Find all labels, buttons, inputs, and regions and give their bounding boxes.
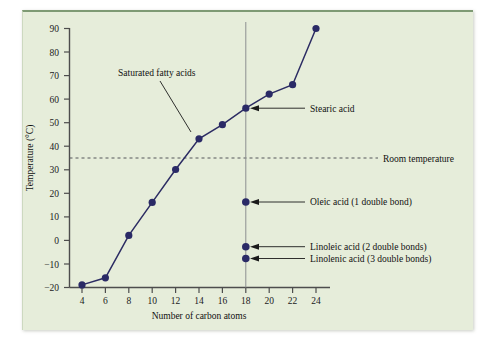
annotation-linoleic-acid-label: Linoleic acid (2 double bonds) (310, 242, 427, 253)
annotation-linolenic-arrowhead (250, 256, 259, 262)
annotation-linoleic-arrowhead (250, 244, 259, 250)
annotation-linolenic-acid-label: Linolenic acid (3 double bonds) (310, 254, 431, 265)
annotation-room-temperature-label: Room temperature (383, 154, 454, 164)
x-tick-label: 18 (241, 296, 251, 306)
y-tick-label: −20 (44, 283, 59, 293)
y-tick-label: 10 (50, 212, 60, 222)
y-axis-ticks: 90 80 70 60 50 40 30 20 10 0 −10 −20 (44, 24, 69, 293)
data-point (195, 135, 202, 142)
annotation-stearic-arrowhead (250, 105, 259, 111)
y-tick-label: 80 (50, 48, 60, 58)
y-tick-label: 20 (50, 189, 60, 199)
x-tick-label: 24 (311, 296, 321, 306)
x-tick-label: 14 (194, 296, 204, 306)
annotation-linolenic-acid: Linolenic acid (3 double bonds) (250, 254, 431, 265)
saturated-data-points (78, 25, 319, 289)
data-point-stearic (242, 105, 249, 112)
annotation-stearic-acid-label: Stearic acid (310, 104, 355, 114)
x-tick-label: 10 (147, 296, 157, 306)
annotation-saturated-fatty-acids-label: Saturated fatty acids (118, 68, 196, 78)
annotation-stearic-acid: Stearic acid (250, 104, 355, 114)
annotation-saturated-leader-line (160, 81, 191, 132)
axes-group (70, 28, 331, 288)
y-tick-label: 50 (50, 118, 60, 128)
data-point (266, 91, 273, 98)
x-tick-label: 4 (80, 296, 85, 306)
data-point-linolenic (242, 255, 250, 263)
x-axis-ticks: 4 6 8 10 12 14 16 18 20 22 24 (80, 288, 321, 307)
data-point (289, 81, 296, 88)
x-tick-label: 6 (103, 296, 108, 306)
y-tick-label: 30 (50, 165, 60, 175)
annotation-oleic-arrowhead (250, 199, 259, 205)
y-axis-title: Temperature (°C) (25, 125, 36, 192)
data-point-oleic (242, 198, 250, 206)
data-point (172, 166, 179, 173)
annotation-oleic-acid: Oleic acid (1 double bond) (250, 197, 412, 208)
data-point (219, 121, 226, 128)
chart-plot: 90 80 70 60 50 40 30 20 10 0 −10 −20 Tem… (0, 0, 489, 338)
y-tick-label: 0 (54, 236, 59, 246)
y-tick-label: 40 (50, 142, 60, 152)
x-axis-title: Number of carbon atoms (152, 311, 247, 321)
annotation-linoleic-acid: Linoleic acid (2 double bonds) (250, 242, 427, 253)
x-tick-label: 8 (126, 296, 131, 306)
data-point (78, 281, 85, 288)
x-tick-label: 22 (288, 296, 298, 306)
x-tick-label: 20 (264, 296, 274, 306)
y-tick-label: 70 (50, 71, 60, 81)
annotation-oleic-acid-label: Oleic acid (1 double bond) (310, 197, 412, 208)
y-tick-label: 90 (50, 24, 60, 34)
data-point (312, 25, 319, 32)
x-tick-label: 16 (218, 296, 228, 306)
data-point-linoleic (242, 243, 250, 251)
data-point (102, 274, 109, 281)
x-tick-label: 12 (171, 296, 181, 306)
data-point (149, 199, 156, 206)
y-tick-label: −10 (44, 260, 59, 270)
figure-container: 90 80 70 60 50 40 30 20 10 0 −10 −20 Tem… (0, 0, 489, 338)
y-tick-label: 60 (50, 95, 60, 105)
data-point (125, 232, 132, 239)
